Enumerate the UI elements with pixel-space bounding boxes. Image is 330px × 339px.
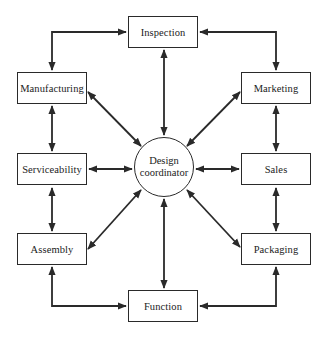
center-label-line2: coordinator — [140, 167, 188, 179]
node-label: Inspection — [141, 27, 186, 38]
node-label: Sales — [265, 164, 288, 175]
node-label: Assembly — [31, 244, 74, 255]
center-label-line1: Design — [149, 155, 179, 167]
node-sales: Sales — [241, 153, 311, 185]
node-packaging: Packaging — [241, 233, 311, 265]
node-assembly: Assembly — [17, 233, 87, 265]
arrow-inspection-manufacturing — [52, 32, 126, 70]
arrow-center-assembly — [88, 190, 141, 249]
node-label: Packaging — [254, 244, 299, 255]
node-label: Manufacturing — [20, 83, 84, 94]
node-label: Function — [144, 301, 182, 312]
design-coordinator-node: Design coordinator — [134, 137, 194, 197]
node-inspection: Inspection — [128, 16, 198, 48]
arrow-center-manufacturing — [88, 92, 141, 146]
arrow-inspection-marketing — [200, 32, 276, 70]
node-marketing: Marketing — [241, 72, 311, 104]
node-manufacturing: Manufacturing — [17, 72, 87, 104]
arrow-center-marketing — [187, 92, 240, 146]
node-serviceability: Serviceability — [17, 153, 87, 185]
arrow-center-packaging — [187, 190, 240, 247]
node-label: Marketing — [254, 83, 299, 94]
node-function: Function — [128, 290, 198, 322]
arrow-packaging-function — [200, 267, 276, 306]
arrow-assembly-function — [52, 267, 126, 306]
node-label: Serviceability — [22, 164, 82, 175]
